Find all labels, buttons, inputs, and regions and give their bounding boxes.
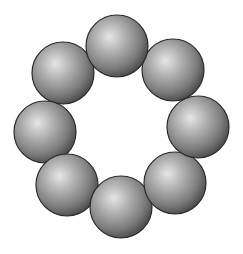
sphere-right [167, 96, 229, 158]
sphere-ring-diagram [0, 0, 243, 254]
sphere-bottom-right [144, 152, 206, 214]
sphere-top [86, 15, 148, 77]
sphere-group [14, 15, 229, 238]
sphere-bottom [90, 176, 152, 238]
sphere-top-right [142, 39, 204, 101]
sphere-top-left [32, 42, 94, 104]
sphere-bottom-left [36, 154, 98, 216]
